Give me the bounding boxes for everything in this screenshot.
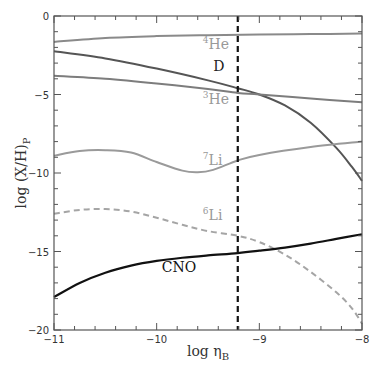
x-tick-label: −8 <box>355 334 370 345</box>
y-axis-title-main: log (X/H) <box>13 144 29 208</box>
label-6li: 6Li <box>203 206 223 223</box>
label-4he: 4He <box>203 35 229 52</box>
label-d: D <box>213 58 224 74</box>
y-tick-label: −20 <box>28 325 49 336</box>
plot-curves <box>54 34 362 324</box>
label-7li: 7Li <box>203 151 223 168</box>
y-tick-label: −5 <box>34 90 49 101</box>
y-axis-title-subscript: P <box>21 137 32 144</box>
axis-tick-labels: −11−10−9−80−5−10−15−20 <box>28 11 369 345</box>
y-tick-label: 0 <box>43 11 49 22</box>
curve-6li <box>54 209 362 324</box>
x-axis-title: log ηB <box>187 343 229 362</box>
curve-cno <box>54 234 362 297</box>
y-tick-label: −15 <box>28 247 49 258</box>
axis-ticks <box>54 16 362 330</box>
x-tick-label: −10 <box>146 334 167 345</box>
x-axis-title-main: log η <box>187 343 222 359</box>
y-tick-label: −10 <box>28 168 49 179</box>
x-tick-label: −9 <box>252 334 267 345</box>
bbn-abundance-chart: −11−10−9−80−5−10−15−20 4HeD3He7Li6LiCNO … <box>0 0 379 384</box>
plot-frame <box>54 16 362 330</box>
x-axis-title-subscript: B <box>222 351 229 362</box>
label-cno: CNO <box>162 259 196 275</box>
label-3he: 3He <box>203 90 229 107</box>
